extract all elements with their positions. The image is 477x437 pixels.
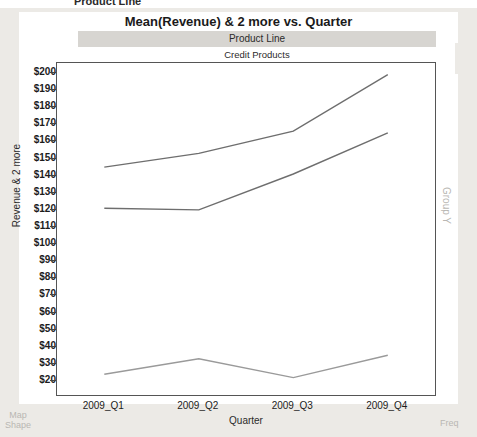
x-tick-label: 2009_Q1 xyxy=(58,400,148,411)
chart-window: Product Line Mean(Revenue) & 2 more vs. … xyxy=(0,0,477,437)
series-line xyxy=(104,355,388,377)
group-y-label: Group Y xyxy=(441,166,452,246)
x-tick-label: 2009_Q4 xyxy=(342,400,432,411)
map-shape-dock-label[interactable]: Map Shape xyxy=(1,410,35,430)
y-axis: $200$190$180$170$160$150$140$130$120$110… xyxy=(0,62,56,402)
series-line xyxy=(104,133,388,210)
series-line xyxy=(104,75,388,167)
map-shape-line1: Map xyxy=(1,410,35,420)
band-right-spacer xyxy=(455,43,477,74)
chart-title: Mean(Revenue) & 2 more vs. Quarter xyxy=(19,12,458,31)
panel-variable-band: Product Line xyxy=(78,31,436,47)
x-tick-label: 2009_Q2 xyxy=(153,400,243,411)
freq-dock-label[interactable]: Freq xyxy=(440,418,459,428)
cropped-panel-title: Product Line xyxy=(74,0,254,6)
x-tick-label: 2009_Q3 xyxy=(247,400,337,411)
panel-value-band: Credit Products xyxy=(78,47,436,62)
y-axis-title: Revenue & 2 more xyxy=(11,126,22,246)
plot-area xyxy=(56,62,436,396)
map-shape-line2: Shape xyxy=(1,420,35,430)
x-axis-title: Quarter xyxy=(56,415,436,426)
series-lines xyxy=(57,63,435,395)
